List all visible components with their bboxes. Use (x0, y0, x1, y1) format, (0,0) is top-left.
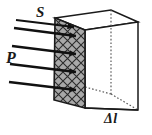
pressure-label-P: P (6, 50, 16, 66)
physics-diagram-figure: S P Δl (0, 0, 152, 135)
diagram-canvas (0, 0, 152, 135)
hatched-front-face (54, 18, 85, 108)
length-label-delta-l: Δl (104, 112, 118, 126)
area-label-S: S (36, 5, 44, 20)
